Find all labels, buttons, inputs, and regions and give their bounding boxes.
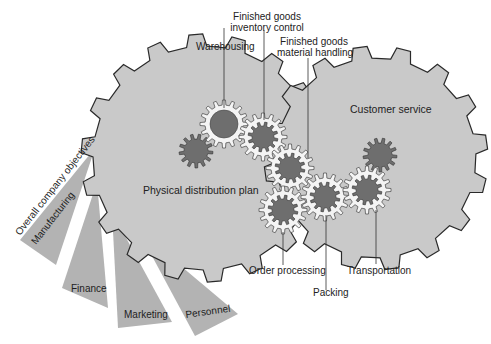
gear-transportation [343,166,391,214]
label-inventory-control: Finished goods inventory control [230,11,304,33]
label-inventory-control-line1: Finished goods [230,11,304,22]
label-material-handling-line2: material handling [277,47,351,58]
gear-material-handling [266,144,314,192]
label-packing: Packing [313,287,349,298]
fan-item-finance: Finance [71,283,107,294]
label-order-processing: Order processing [249,265,326,276]
label-material-handling-line1: Finished goods [277,36,351,47]
gear-packing [301,173,349,221]
label-transportation: Transportation [347,265,411,276]
fan-item-marketing: Marketing [124,309,168,320]
label-customer-service: Customer service [350,103,432,115]
label-physical-distribution-plan: Physical distribution plan [143,184,259,196]
label-inventory-control-line2: inventory control [230,22,304,33]
label-warehousing: Warehousing [196,41,255,52]
gear-order-processing [259,186,307,234]
label-material-handling: Finished goods material handling [277,36,351,58]
